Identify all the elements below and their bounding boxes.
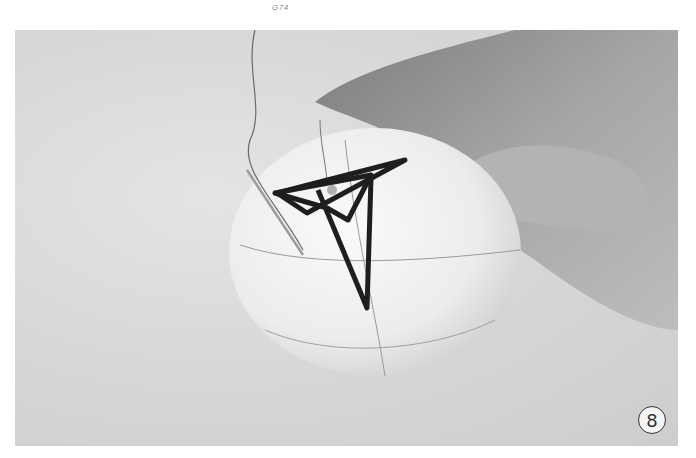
page-header-label: G74 <box>272 3 289 12</box>
step-number-badge: 8 <box>638 406 666 434</box>
instruction-photo: 8 <box>15 30 678 446</box>
temari-illustration <box>15 30 678 446</box>
